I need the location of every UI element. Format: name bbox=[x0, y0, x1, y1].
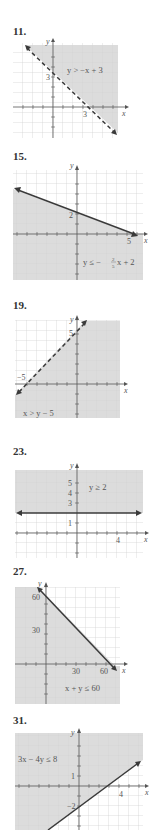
y-tick-4: 4 bbox=[68, 489, 72, 498]
y-tick-5: 5 bbox=[68, 479, 72, 488]
y-axis-label: y bbox=[37, 579, 42, 588]
y-tick-1: 1 bbox=[68, 519, 72, 528]
x-tick-label: −5 bbox=[17, 373, 26, 382]
x-axis-label: x bbox=[143, 535, 148, 544]
problem-31-number: 31. bbox=[13, 714, 27, 726]
x-tick-label: 4 bbox=[119, 790, 123, 799]
y-tick-30: 30 bbox=[32, 626, 40, 635]
y-tick-1: 1 bbox=[71, 772, 75, 781]
graph-15: y x 2 5 y ≤ − 2 5 x + 2 bbox=[0, 163, 152, 281]
y-axis-arrow-icon bbox=[77, 728, 81, 733]
inequality-label: y ≥ 2 bbox=[89, 482, 106, 492]
x-tick-60: 60 bbox=[100, 667, 108, 676]
problem-15-number: 15. bbox=[13, 150, 27, 162]
y-axis-label: y bbox=[45, 37, 50, 46]
x-axis-label: x bbox=[123, 386, 128, 395]
graph-11: y x 3 3 y > −x + 3 bbox=[0, 38, 152, 143]
graph-27: y x 60 30 30 60 x + y ≤ 60 bbox=[0, 580, 152, 706]
y-tick-3: 3 bbox=[68, 499, 72, 508]
inequality-label: x + y ≤ 60 bbox=[65, 683, 100, 693]
inequality-label: y ≤ − bbox=[83, 257, 101, 267]
y-tick-label: 5 bbox=[69, 329, 73, 338]
problem-19-number: 19. bbox=[13, 299, 27, 311]
y-axis-label: y bbox=[69, 461, 74, 470]
x-axis-label: x bbox=[121, 109, 126, 118]
y-axis-arrow-icon bbox=[75, 463, 79, 468]
y-tick-label: 3 bbox=[46, 73, 50, 82]
x-tick-label: 5 bbox=[127, 237, 131, 246]
y-axis-arrow-icon bbox=[75, 315, 79, 320]
x-axis-arrow-icon bbox=[125, 105, 129, 109]
x-axis-label: x bbox=[144, 788, 149, 797]
problem-23-number: 23. bbox=[13, 445, 27, 457]
y-tick-neg2: −2 bbox=[67, 802, 76, 811]
inequality-label: y > −x + 3 bbox=[67, 65, 103, 75]
y-tick-label: 2 bbox=[69, 211, 73, 220]
y-axis-label: y bbox=[69, 315, 74, 324]
inequality-label: x > y − 5 bbox=[23, 408, 54, 418]
y-tick-60: 60 bbox=[32, 593, 40, 602]
y-axis-arrow-icon bbox=[75, 165, 79, 170]
inequality-tail: x + 2 bbox=[117, 257, 135, 267]
problem-27-number: 27. bbox=[13, 565, 27, 577]
x-tick-label: 4 bbox=[116, 536, 120, 545]
x-axis-label: x bbox=[121, 666, 126, 675]
x-tick-label: 3 bbox=[83, 110, 87, 119]
y-axis-arrow-icon bbox=[51, 38, 55, 42]
problem-11-number: 11. bbox=[13, 25, 26, 37]
graph-19: y x 5 −5 x > y − 5 bbox=[0, 312, 152, 420]
y-axis-label: y bbox=[69, 161, 74, 170]
graph-31: y x 1 −2 4 3x − 4y ≤ 8 bbox=[0, 728, 152, 830]
graph-23: y x 5 4 3 1 4 y ≥ 2 bbox=[0, 461, 152, 561]
inequality-label: 3x − 4y ≤ 8 bbox=[18, 754, 57, 764]
x-axis-label: x bbox=[143, 236, 148, 245]
y-axis-label: y bbox=[70, 728, 75, 737]
y-axis-arrow-icon bbox=[44, 582, 48, 587]
x-tick-30: 30 bbox=[72, 667, 80, 676]
